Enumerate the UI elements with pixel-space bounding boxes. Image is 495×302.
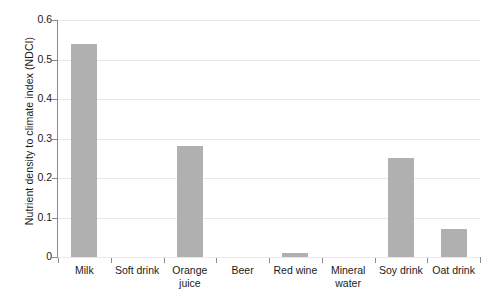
- y-axis-ticks: 00.10.20.30.40.50.6: [0, 0, 52, 302]
- y-tick-label: 0.4: [8, 93, 52, 104]
- gridline: [58, 20, 480, 21]
- x-tick-label: Oat drink: [421, 264, 486, 277]
- y-tick-mark: [52, 20, 58, 21]
- bar: [388, 158, 414, 257]
- y-tick-mark: [52, 178, 58, 179]
- y-tick-mark: [52, 99, 58, 100]
- y-tick-label: 0.6: [8, 14, 52, 25]
- y-tick-mark: [52, 139, 58, 140]
- y-tick-label: 0: [8, 251, 52, 262]
- x-tick-mark: [164, 258, 165, 263]
- gridline: [58, 178, 480, 179]
- gridline: [58, 139, 480, 140]
- x-tick-mark: [111, 258, 112, 263]
- bar-chart: Nutrient density to climate index (NDCI)…: [0, 0, 495, 302]
- y-tick-mark: [52, 60, 58, 61]
- gridline: [58, 218, 480, 219]
- gridline: [58, 60, 480, 61]
- y-tick-label: 0.5: [8, 54, 52, 65]
- x-tick-mark: [375, 258, 376, 263]
- x-tick-mark: [322, 258, 323, 263]
- bar: [282, 253, 308, 257]
- x-tick-mark: [269, 258, 270, 263]
- y-tick-label: 0.3: [8, 133, 52, 144]
- x-tick-mark: [427, 258, 428, 263]
- y-tick-label: 0.1: [8, 212, 52, 223]
- bar: [177, 146, 203, 257]
- plot-area: [58, 20, 480, 257]
- x-axis-labels: MilkSoft drinkOrangejuiceBeerRed wineMin…: [58, 264, 480, 302]
- bar: [441, 229, 467, 257]
- x-tick-mark: [58, 258, 59, 263]
- bar: [71, 44, 97, 257]
- x-tick-mark: [216, 258, 217, 263]
- x-tick-mark: [480, 258, 481, 263]
- gridline: [58, 99, 480, 100]
- y-tick-label: 0.2: [8, 172, 52, 183]
- y-tick-mark: [52, 218, 58, 219]
